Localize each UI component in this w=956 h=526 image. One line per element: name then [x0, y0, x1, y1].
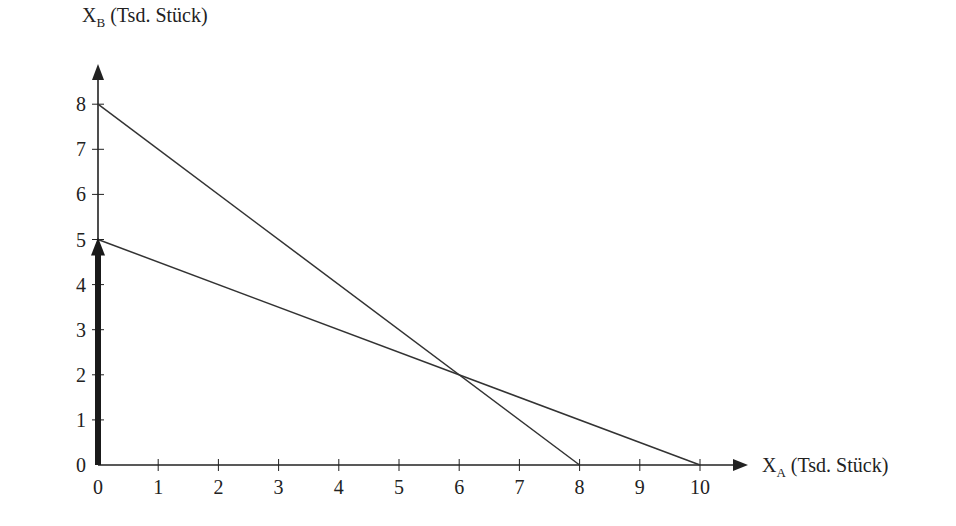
bold-arrow-head-icon: [91, 238, 105, 256]
x-tick-label: 2: [213, 476, 223, 498]
y-axis-arrow-icon: [92, 64, 104, 80]
x-tick-label: 3: [274, 476, 284, 498]
x-tick-label: 10: [690, 476, 710, 498]
x-tick-label: 4: [334, 476, 344, 498]
y-tick-label: 1: [76, 409, 86, 431]
y-tick-label: 0: [76, 454, 86, 476]
y-tick-label: 5: [76, 229, 86, 251]
constraint-line: [98, 240, 700, 466]
y-tick-label: 2: [76, 364, 86, 386]
y-tick-label: 6: [76, 183, 86, 205]
axes: [92, 64, 748, 471]
x-tick-label: 9: [635, 476, 645, 498]
x-tick-label: 7: [514, 476, 524, 498]
annotations: [91, 238, 105, 466]
y-tick-label: 3: [76, 319, 86, 341]
y-tick-label: 8: [76, 93, 86, 115]
x-tick-label: 6: [454, 476, 464, 498]
x-axis-arrow-icon: [733, 459, 748, 471]
constraint-line: [98, 104, 580, 465]
x-tick-label: 8: [575, 476, 585, 498]
data-series: [98, 104, 700, 465]
y-tick-label: 7: [76, 138, 86, 160]
x-tick-label: 0: [93, 476, 103, 498]
axis-ticks: 012345678910012345678: [76, 93, 710, 498]
y-axis-title: XB (Tsd. Stück): [82, 4, 208, 30]
y-tick-label: 4: [76, 274, 86, 296]
x-axis-title: XA (Tsd. Stück): [762, 454, 888, 480]
x-tick-label: 1: [153, 476, 163, 498]
chart-canvas: 012345678910012345678 XB (Tsd. Stück) XA…: [0, 0, 956, 526]
x-tick-label: 5: [394, 476, 404, 498]
